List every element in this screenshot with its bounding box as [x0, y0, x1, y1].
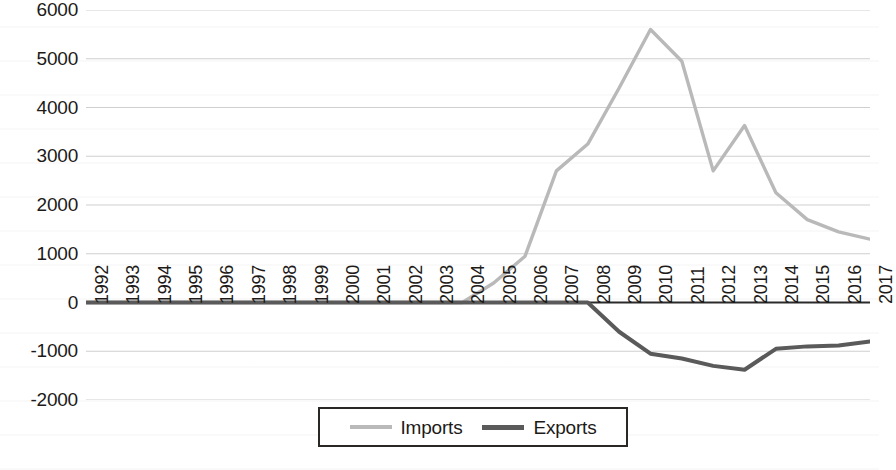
- y-tick-label--1000: -1000: [10, 341, 78, 360]
- x-tick-label-2012: 2012: [720, 265, 738, 304]
- y-tick-label-4000: 4000: [10, 98, 78, 117]
- x-tick-label-1992: 1992: [93, 265, 111, 304]
- x-tick-label-1995: 1995: [187, 265, 205, 304]
- x-tick-label-2003: 2003: [438, 265, 456, 304]
- y-tick-label-6000: 6000: [10, 0, 78, 19]
- x-tick-label-2001: 2001: [375, 265, 393, 304]
- x-tick-label-2004: 2004: [469, 265, 487, 304]
- x-tick-label-2005: 2005: [501, 265, 519, 304]
- legend-item-imports[interactable]: Imports: [350, 418, 463, 437]
- x-tick-label-2006: 2006: [532, 265, 550, 304]
- x-tick-label-2016: 2016: [846, 265, 864, 304]
- legend-label-imports: Imports: [401, 418, 463, 437]
- y-tick-label-2000: 2000: [10, 195, 78, 214]
- y-tick-label--2000: -2000: [10, 390, 78, 409]
- y-tick-label-0: 0: [10, 293, 78, 312]
- x-tick-label-2014: 2014: [783, 265, 801, 304]
- series-line-imports: [86, 30, 870, 303]
- x-tick-label-2008: 2008: [595, 265, 613, 304]
- x-tick-label-2013: 2013: [752, 265, 770, 304]
- exports-line-swatch: [482, 425, 524, 430]
- y-axis: 6000500040003000200010000-1000-2000: [0, 0, 78, 470]
- x-tick-label-2010: 2010: [657, 265, 675, 304]
- x-tick-label-1996: 1996: [218, 265, 236, 304]
- y-tick-label-3000: 3000: [10, 146, 78, 165]
- x-tick-label-2017: 2017: [877, 265, 895, 304]
- x-tick-label-1997: 1997: [250, 265, 268, 304]
- x-axis: 1992199319941995199619971998199920002001…: [86, 302, 870, 392]
- x-tick-label-2011: 2011: [689, 266, 707, 304]
- x-tick-label-2002: 2002: [407, 265, 425, 304]
- y-tick-label-5000: 5000: [10, 49, 78, 68]
- x-tick-label-1998: 1998: [281, 265, 299, 304]
- x-tick-label-1999: 1999: [313, 265, 331, 304]
- x-tick-label-1994: 1994: [156, 265, 174, 304]
- x-tick-label-2015: 2015: [814, 265, 832, 304]
- imports-line-swatch: [350, 425, 392, 429]
- x-tick-label-2000: 2000: [344, 265, 362, 304]
- legend-item-exports[interactable]: Exports: [482, 418, 596, 437]
- x-tick-label-2009: 2009: [626, 265, 644, 304]
- x-tick-label-1993: 1993: [124, 265, 142, 304]
- x-tick-label-2007: 2007: [563, 265, 581, 304]
- legend-label-exports: Exports: [533, 418, 596, 437]
- y-tick-label-1000: 1000: [10, 244, 78, 263]
- chart-legend: Imports Exports: [318, 407, 628, 447]
